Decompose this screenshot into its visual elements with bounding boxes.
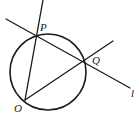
line-op (25, 0, 43, 100)
line-l (6, 19, 130, 88)
label-q: Q (92, 54, 100, 66)
label-p: P (39, 21, 47, 33)
label-l: l (131, 87, 134, 99)
circle (10, 34, 86, 110)
geometry-diagram: P Q O l (0, 0, 139, 113)
label-o: O (14, 102, 22, 113)
